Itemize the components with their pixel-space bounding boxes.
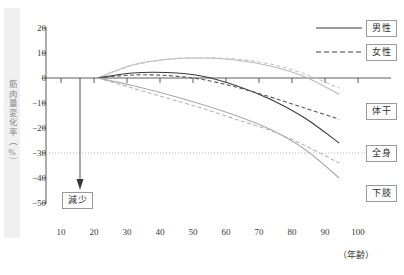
chart-figure: 筋肉量変化率（%） 20 10 0 −10 −20 −30 −40 −50 10… <box>0 0 404 275</box>
series-label-whole-body: 全身 <box>366 145 397 162</box>
curve-全身-女性 <box>98 75 340 119</box>
series-label-trunk: 体干 <box>366 103 397 120</box>
decrease-annotation: 減少 <box>62 192 93 209</box>
data-curves <box>98 58 340 178</box>
legend-male-label: 男性 <box>366 20 397 37</box>
curve-下肢-女性 <box>98 78 340 163</box>
plot-area <box>0 0 404 275</box>
legend-female-label: 女性 <box>366 44 397 61</box>
series-label-lower-limbs: 下肢 <box>366 185 397 202</box>
curve-体干-男性 <box>98 58 340 94</box>
curve-下肢-男性 <box>98 78 340 178</box>
legend-male-line <box>316 27 362 29</box>
decrease-arrow <box>77 78 84 190</box>
legend-female-line <box>316 51 362 53</box>
